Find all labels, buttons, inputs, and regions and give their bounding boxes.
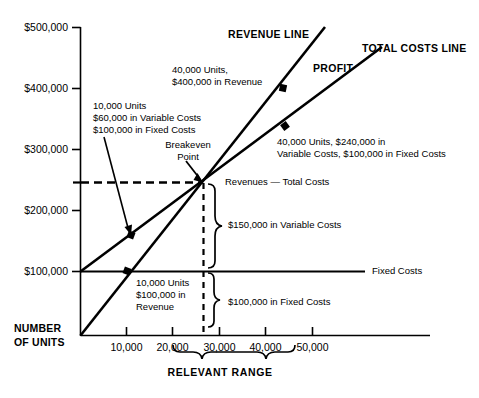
- revenue-10k-note-line2: $100,000 in: [136, 289, 186, 300]
- fixed-costs-brace: [208, 273, 220, 327]
- variable-costs-brace: [208, 184, 222, 268]
- x-tick-marks: [127, 327, 313, 336]
- revenues-minus-total-costs-note: Revenues — Total Costs: [225, 176, 329, 187]
- y-tick-label-300000: $300,000: [0, 143, 68, 155]
- y-tick-label-200000: $200,000: [0, 204, 68, 216]
- breakeven-arrow: [186, 161, 203, 183]
- breakeven-label-line2: Point: [148, 151, 228, 162]
- x-axis-title-line1: NUMBER: [14, 322, 61, 334]
- revenue-40k-note-line2: $400,000 in Revenue: [172, 76, 262, 87]
- x-tick-label-50000: 50,000: [282, 341, 343, 353]
- relevant-range-label: RELEVANT RANGE: [150, 366, 290, 378]
- y-tick-label-500000: $500,000: [0, 21, 68, 33]
- fixed-costs-label: Fixed Costs: [372, 265, 422, 276]
- revenue-10k-note-line1: 10,000 Units: [136, 277, 189, 288]
- y-tick-label-400000: $400,000: [0, 82, 68, 94]
- x-axis-title-line2: OF UNITS: [14, 336, 65, 348]
- y-tick-marks: [72, 28, 81, 272]
- revenue-10k-note-line3: Revenue: [136, 301, 174, 312]
- revenue-line-label: REVENUE LINE: [228, 28, 309, 40]
- total-costs-10k-note-line1: 10,000 Units: [93, 100, 146, 111]
- revenue-40k-note-line1: 40,000 Units,: [172, 64, 228, 75]
- total-costs-40k-note-line2: Variable Costs, $100,000 in Fixed Costs: [277, 148, 446, 159]
- total-costs-10k-note-line3: $100,000 in Fixed Costs: [93, 124, 195, 135]
- profit-label: PROFIT: [313, 62, 353, 74]
- total-costs-10k-note-line2: $60,000 in Variable Costs: [93, 112, 201, 123]
- y-tick-label-100000: $100,000: [0, 265, 68, 277]
- variable-costs-note-arrow: [104, 137, 132, 235]
- variable-costs-amount-note: $150,000 in Variable Costs: [228, 219, 341, 230]
- fixed-costs-amount-note: $100,000 in Fixed Costs: [228, 296, 330, 307]
- total-costs-40k-note-line1: 40,000 Units, $240,000 in: [277, 136, 385, 147]
- total-costs-line-label: TOTAL COSTS LINE: [362, 42, 467, 54]
- breakeven-chart: [0, 0, 479, 398]
- breakeven-label-line1: Breakeven: [148, 139, 228, 150]
